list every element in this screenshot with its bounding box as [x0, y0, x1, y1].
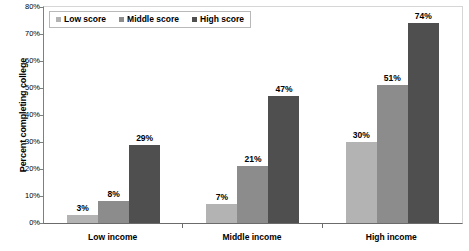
bar-value-label: 29%	[125, 133, 165, 143]
bar-value-label: 7%	[202, 192, 242, 202]
x-axis-tick-mark	[182, 224, 183, 228]
bar-group: 7%21%47%	[183, 7, 322, 223]
legend-item-middle-score[interactable]: Middle score	[119, 15, 179, 24]
y-axis-tick-label: 30%	[14, 138, 40, 146]
x-axis-tick-mark	[322, 224, 323, 228]
x-axis-category-low-income: Low income	[53, 232, 173, 242]
bar-value-label: 74%	[403, 11, 443, 21]
bar-value-label: 30%	[341, 130, 381, 140]
y-axis-tick-label: 60%	[14, 57, 40, 65]
bar-high-income-middle-score[interactable]	[377, 85, 408, 223]
y-axis-tick-labels: 80%70%60%50%40%30%20%10%0%	[14, 0, 40, 224]
y-axis-tick-label: 40%	[14, 111, 40, 119]
y-axis-tick-label: 50%	[14, 84, 40, 92]
legend-label: High score	[200, 15, 244, 24]
x-axis-category-high-income: High income	[331, 232, 451, 242]
legend-swatch-icon	[119, 17, 124, 22]
bar-value-label: 21%	[233, 154, 273, 164]
x-axis-category-middle-income: Middle income	[192, 232, 312, 242]
bar-low-income-high-score[interactable]	[129, 145, 160, 223]
bar-group: 3%8%29%	[44, 7, 183, 223]
x-axis-category-labels: Low incomeMiddle incomeHigh income	[43, 232, 463, 248]
legend-label: Low score	[64, 15, 106, 24]
chart-legend: Low scoreMiddle scoreHigh score	[49, 11, 251, 28]
bar-value-label: 8%	[94, 189, 134, 199]
bar-value-label: 47%	[264, 84, 304, 94]
y-axis-tick-label: 10%	[14, 192, 40, 200]
bar-middle-income-high-score[interactable]	[268, 96, 299, 223]
bar-middle-income-low-score[interactable]	[206, 204, 237, 223]
legend-swatch-icon	[192, 17, 197, 22]
legend-swatch-icon	[56, 17, 61, 22]
y-axis-tick-label: 80%	[14, 3, 40, 11]
y-axis-tick-label: 20%	[14, 165, 40, 173]
y-axis-tick-label: 70%	[14, 30, 40, 38]
bar-value-label: 3%	[63, 203, 103, 213]
legend-label: Middle score	[127, 15, 179, 24]
bar-group: 30%51%74%	[323, 7, 462, 223]
bar-chart: Percent completing college 80%70%60%50%4…	[0, 0, 469, 251]
bars-layer: 3%8%29%7%21%47%30%51%74%	[44, 7, 462, 223]
bar-high-income-high-score[interactable]	[408, 23, 439, 223]
legend-item-high-score[interactable]: High score	[192, 15, 244, 24]
cropped-title-remnant	[120, 0, 350, 3]
bar-low-income-low-score[interactable]	[67, 215, 98, 223]
y-axis-tick-label: 0%	[14, 219, 40, 227]
bar-value-label: 51%	[372, 73, 412, 83]
bar-high-income-low-score[interactable]	[346, 142, 377, 223]
bar-middle-income-middle-score[interactable]	[237, 166, 268, 223]
bar-low-income-middle-score[interactable]	[98, 201, 129, 223]
legend-item-low-score[interactable]: Low score	[56, 15, 106, 24]
